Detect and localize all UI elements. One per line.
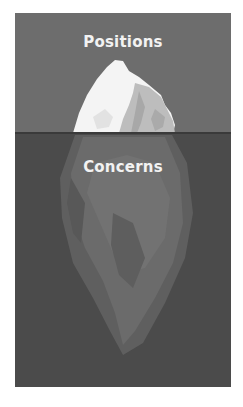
positions-label: Positions xyxy=(15,33,231,51)
waterline xyxy=(15,132,231,134)
iceberg-figure: Positions Concerns xyxy=(15,13,231,387)
concerns-label: Concerns xyxy=(15,158,231,176)
iceberg-illustration xyxy=(15,13,231,387)
